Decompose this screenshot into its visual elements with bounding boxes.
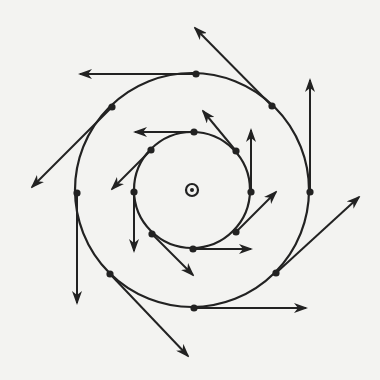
- dot-in-circle-icon: [186, 184, 198, 196]
- inner-lower-right-point: [232, 228, 239, 235]
- outer-upper-left-point: [108, 103, 115, 110]
- rotating-vector-field-diagram: Two concentric circles with eight points…: [0, 0, 380, 380]
- inner-top-point: [190, 128, 197, 135]
- outer-top-point: [192, 70, 199, 77]
- inner-upper-right-arrow-icon: [203, 111, 236, 151]
- inner-lower-left-point: [148, 230, 155, 237]
- outer-upper-left-arrow-icon: [32, 107, 112, 187]
- outer-lower-left-arrow-icon: [110, 274, 188, 356]
- outer-upper-right-point: [268, 102, 275, 109]
- inner-right-point: [247, 188, 254, 195]
- inner-lower-left-arrow-icon: [152, 234, 193, 275]
- inner-upper-left-arrow-icon: [112, 150, 151, 189]
- outer-upper-right-arrow-icon: [195, 28, 272, 106]
- inner-left-point: [130, 188, 137, 195]
- outer-lower-left-point: [106, 270, 113, 277]
- outer-bottom-point: [190, 304, 197, 311]
- inner-lower-right-arrow-icon: [236, 192, 276, 232]
- inner-upper-left-point: [147, 146, 154, 153]
- diagram-canvas: [0, 0, 380, 380]
- outer-left-point: [73, 189, 80, 196]
- inner-upper-right-point: [232, 147, 239, 154]
- outer-lower-right-point: [272, 269, 279, 276]
- outer-right-point: [306, 188, 313, 195]
- outer-lower-right-arrow-icon: [276, 197, 359, 273]
- inner-bottom-point: [189, 245, 196, 252]
- center-dot: [190, 188, 194, 192]
